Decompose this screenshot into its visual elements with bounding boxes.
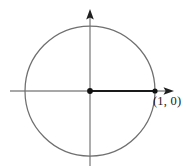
figure-canvas (0, 0, 190, 166)
unit-circle-figure: (1, 0) (0, 0, 190, 166)
unit-point-label: (1, 0) (153, 94, 181, 108)
origin-point (87, 88, 93, 94)
unit-point (152, 88, 157, 93)
